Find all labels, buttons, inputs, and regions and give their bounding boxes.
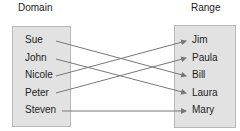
mapping-arrows (0, 0, 240, 131)
